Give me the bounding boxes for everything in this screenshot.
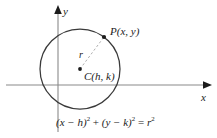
circle-equation-label: (x − h)2 + (y − k)2 = r2 — [56, 116, 155, 128]
equation-rhs-exponent: 2 — [151, 115, 154, 122]
y-axis-arrowhead-icon — [54, 5, 62, 14]
point-p-dot — [102, 35, 106, 39]
point-p-label: P(x, y) — [110, 26, 139, 37]
center-point-dot — [78, 67, 82, 71]
y-axis-label: y — [63, 6, 68, 17]
equation-term-1-base: (x − h) — [56, 116, 87, 128]
radius-label: r — [79, 50, 83, 60]
radius-segment — [80, 37, 104, 69]
center-c-label: C(h, k) — [84, 71, 115, 82]
equation-term-2-base: (y − k) — [102, 116, 132, 128]
circle-equation-figure: y x r P(x, y) C(h, k) (x − h)2 + (y − k)… — [0, 0, 217, 138]
x-axis-arrowhead-icon — [203, 81, 212, 89]
x-axis-label: x — [201, 92, 206, 103]
